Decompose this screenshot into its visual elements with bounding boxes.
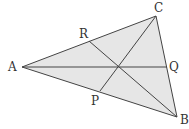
triangle-diagram: A C B R Q P [0,0,189,129]
label-a: A [7,60,17,74]
label-q: Q [169,60,179,74]
label-r: R [79,27,89,41]
label-p: P [91,94,99,108]
label-c: C [154,1,163,15]
label-b: B [180,113,189,127]
